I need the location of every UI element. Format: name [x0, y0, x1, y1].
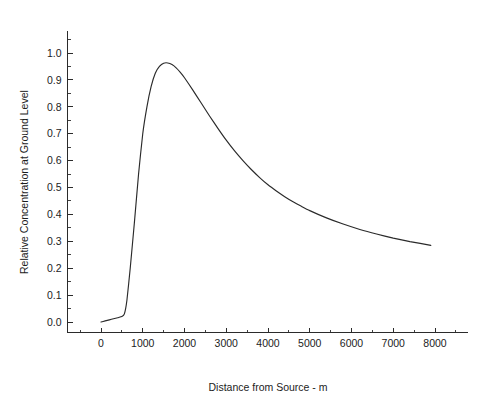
chart-figure: 0.00.10.20.30.40.50.60.70.80.91.0 010002…	[0, 0, 497, 417]
x-tick-label: 5000	[298, 337, 322, 349]
y-tick-label: 0.7	[47, 127, 62, 139]
x-tick-label: 3000	[215, 337, 239, 349]
y-tick-label: 0.1	[47, 289, 62, 301]
y-tick-label: 0.5	[47, 181, 62, 193]
y-tick-label: 0.3	[47, 235, 62, 247]
plot-canvas: 0.00.10.20.30.40.50.60.70.80.91.0 010002…	[0, 0, 497, 417]
x-axis-tick-labels: 010002000300040005000600070008000	[98, 337, 447, 349]
x-tick-label: 0	[98, 337, 104, 349]
y-tick-label: 0.6	[47, 154, 62, 166]
x-tick-label: 7000	[382, 337, 406, 349]
x-tick-label: 1000	[131, 337, 155, 349]
y-tick-label: 0.4	[47, 208, 62, 220]
y-tick-label: 0.8	[47, 101, 62, 113]
y-tick-label: 1.0	[47, 47, 62, 59]
y-tick-label: 0.0	[47, 316, 62, 328]
y-tick-label: 0.2	[47, 262, 62, 274]
y-tick-label: 0.9	[47, 74, 62, 86]
x-axis-title: Distance from Source - m	[208, 381, 327, 393]
y-axis-title: Relative Concentration at Ground Level	[18, 90, 30, 274]
figure-background	[0, 0, 497, 417]
x-tick-label: 6000	[340, 337, 364, 349]
x-tick-label: 2000	[173, 337, 197, 349]
x-tick-label: 4000	[256, 337, 280, 349]
x-tick-label: 8000	[423, 337, 447, 349]
